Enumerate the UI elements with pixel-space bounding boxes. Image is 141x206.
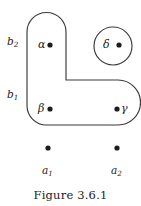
a1-point-dot [45,145,50,150]
figure-3-6-1: b2 b1 α δ β γ a1 a2 Figure 3.6.1 [0,0,141,206]
b2-label: b2 [7,36,18,48]
a2-label: a2 [111,165,122,177]
a2-point-dot [114,145,119,150]
gamma-label: γ [121,103,128,114]
delta-label: δ [103,39,110,50]
alpha-label: α [38,39,45,50]
gamma-point-dot [114,106,119,111]
figure-caption: Figure 3.6.1 [0,188,141,202]
a1-label: a1 [42,165,53,177]
b1-label: b1 [7,89,18,101]
alpha-point-dot [47,42,52,47]
beta-point-dot [47,106,52,111]
delta-point-dot [116,42,121,47]
beta-label: β [38,103,44,114]
delta-circle-region-outline [94,27,132,65]
